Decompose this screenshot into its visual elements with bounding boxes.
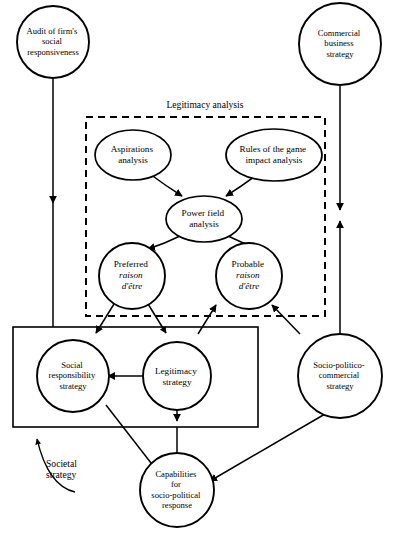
node-probable-line-2: d'être: [239, 281, 260, 291]
node-aspirations-line-0: Aspirations: [111, 144, 154, 154]
node-social-responsibility-line-0: Social: [61, 360, 83, 370]
node-preferred-raison-detre[interactable]: Preferred raison d'être: [99, 243, 165, 309]
node-capabilities-line-0: Capabilities: [155, 469, 197, 479]
societal-strategy-label-line-1: strategy: [46, 469, 77, 480]
node-preferred-line-0: Preferred: [114, 259, 149, 269]
legitimacy-analysis-group-label: Legitimacy analysis: [167, 99, 244, 110]
node-audit-line-0: Audit of firm's: [27, 26, 78, 36]
node-preferred-line-2: d'être: [122, 281, 143, 291]
node-audit[interactable]: Audit of firm's social responsiveness: [17, 6, 89, 78]
node-legitimacy-strategy-line-1: strategy: [162, 377, 191, 387]
node-power-field-analysis[interactable]: Power field analysis: [166, 196, 242, 242]
node-social-responsibility-line-2: strategy: [59, 381, 87, 391]
node-capabilities-line-3: response: [162, 500, 192, 510]
node-socio-politico-line-0: Socio-politico-: [313, 360, 365, 370]
node-preferred-line-1: raison: [119, 270, 143, 280]
edge-preferred-to-legitimacy-strategy: [148, 304, 166, 333]
edge-aspirations-to-powerfield: [150, 174, 182, 196]
node-rules-of-the-game-impact-analysis[interactable]: Rules of the game impact analysis: [226, 129, 322, 181]
flow-diagram: Audit of firm's social responsiveness Co…: [0, 0, 394, 538]
node-socio-politico-line-1: commercial: [319, 370, 360, 380]
edge-socio-politico-to-probable: [272, 305, 300, 334]
node-rules-line-0: Rules of the game: [240, 144, 307, 154]
node-social-responsibility-strategy[interactable]: Social responsibility strategy: [37, 340, 109, 412]
node-social-responsibility-line-1: responsibility: [49, 370, 96, 380]
node-powerfield-line-0: Power field: [182, 208, 225, 218]
node-commercial-line-0: Commercial: [318, 28, 361, 38]
edge-preferred-to-social-responsibility: [96, 304, 114, 333]
node-powerfield-line-1: analysis: [189, 219, 219, 229]
node-audit-line-2: responsiveness: [27, 47, 79, 57]
edge-socio-politico-to-capabilities: [210, 414, 325, 481]
node-commercial-line-2: strategy: [326, 49, 354, 59]
node-legitimacy-strategy-line-0: Legitimacy: [155, 366, 197, 376]
node-legitimacy-strategy[interactable]: Legitimacy strategy: [143, 342, 211, 410]
node-probable-raison-detre[interactable]: Probable raison d'être: [216, 243, 282, 309]
societal-strategy-label-line-0: Societal: [46, 458, 77, 469]
edge-social-responsibility-to-capabilities: [106, 405, 158, 472]
node-commercial-business-strategy[interactable]: Commercial business strategy: [299, 3, 381, 85]
edge-legitimacy-strategy-to-probable: [198, 305, 216, 334]
node-commercial-line-1: business: [324, 38, 354, 48]
node-capabilities-line-2: socio-political: [151, 490, 201, 500]
node-capabilities-line-1: for: [171, 479, 181, 489]
node-probable-line-1: raison: [236, 270, 260, 280]
node-rules-line-1: impact analysis: [246, 155, 303, 165]
node-socio-politico-line-2: strategy: [326, 381, 354, 391]
node-socio-politico-commercial-strategy[interactable]: Socio-politico- commercial strategy: [298, 334, 382, 418]
node-aspirations-line-1: analysis: [118, 155, 148, 165]
node-rules-label: Rules of the game impact analysis: [240, 144, 309, 165]
node-probable-line-0: Probable: [232, 259, 265, 269]
node-capabilities-socio-political-response[interactable]: Capabilities for socio-political respons…: [140, 453, 214, 527]
societal-strategy-group-label: Societal strategy: [46, 458, 79, 480]
node-audit-line-1: social: [42, 36, 63, 46]
diagram-canvas: Audit of firm's social responsiveness Co…: [0, 0, 394, 538]
edge-powerfield-to-preferred: [148, 236, 180, 249]
node-aspirations-analysis[interactable]: Aspirations analysis: [95, 130, 171, 180]
